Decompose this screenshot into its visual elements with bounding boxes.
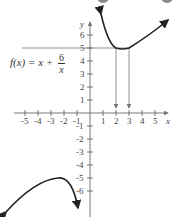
fraction-numerator: 6 bbox=[58, 52, 65, 64]
svg-text:6: 6 bbox=[80, 30, 85, 40]
decorative-circle bbox=[161, 0, 173, 3]
svg-text:3: 3 bbox=[80, 69, 85, 79]
svg-text:3: 3 bbox=[127, 116, 132, 126]
x-axis-label: x bbox=[165, 116, 170, 126]
svg-text:1: 1 bbox=[80, 95, 85, 105]
y-axis-label: y bbox=[79, 19, 84, 29]
svg-text:-4: -4 bbox=[76, 160, 84, 170]
svg-text:-2: -2 bbox=[76, 134, 84, 144]
svg-text:-5: -5 bbox=[21, 116, 29, 126]
function-label-prefix: f(x) = x + bbox=[10, 56, 56, 68]
fraction-denominator: x bbox=[58, 64, 65, 75]
y-tick-labels: 6 5 4 3 2 1 -1 -2 -3 -4 -5 -6 y bbox=[76, 19, 85, 196]
svg-text:-1: -1 bbox=[76, 121, 84, 131]
svg-text:1: 1 bbox=[101, 116, 106, 126]
function-graph: -5 -4 -3 -2 -1 1 2 3 4 5 x bbox=[0, 0, 176, 217]
svg-text:4: 4 bbox=[80, 56, 85, 66]
svg-text:-6: -6 bbox=[76, 186, 84, 196]
graph-canvas: -5 -4 -3 -2 -1 1 2 3 4 5 x bbox=[0, 0, 176, 217]
x-tick-labels: -5 -4 -3 -2 -1 1 2 3 4 5 x bbox=[21, 116, 170, 126]
svg-text:-3: -3 bbox=[47, 116, 55, 126]
curve-positive-branch bbox=[101, 14, 168, 49]
svg-text:2: 2 bbox=[114, 116, 119, 126]
svg-text:2: 2 bbox=[80, 82, 85, 92]
svg-text:-2: -2 bbox=[60, 116, 68, 126]
svg-text:4: 4 bbox=[140, 116, 145, 126]
curve-negative-branch bbox=[6, 178, 78, 212]
decorative-circle bbox=[97, 0, 109, 3]
svg-text:-4: -4 bbox=[34, 116, 42, 126]
svg-text:5: 5 bbox=[153, 116, 158, 126]
function-label: f(x) = x + 6x bbox=[10, 52, 65, 75]
fraction: 6x bbox=[58, 52, 65, 75]
svg-text:-3: -3 bbox=[76, 147, 84, 157]
svg-text:-5: -5 bbox=[76, 173, 84, 183]
